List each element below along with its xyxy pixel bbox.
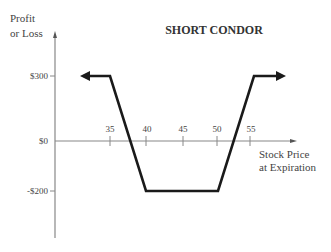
x-tick-label: 40 bbox=[143, 124, 153, 134]
x-tick-label: 55 bbox=[247, 124, 257, 134]
y-ticks: $300 $0 -$200 bbox=[27, 71, 55, 196]
y-axis-arrow-icon bbox=[53, 31, 57, 38]
y-axis-label-line1: Profit bbox=[10, 12, 35, 24]
x-tick-label: 50 bbox=[213, 124, 223, 134]
left-arrow-icon bbox=[80, 71, 90, 81]
x-axis-label-line1: Stock Price bbox=[259, 148, 310, 160]
y-tick-label: $0 bbox=[39, 136, 49, 146]
short-condor-chart: SHORT CONDOR Profit or Loss $300 $0 -$20… bbox=[0, 0, 331, 252]
y-tick-label: -$200 bbox=[27, 186, 48, 196]
chart-title: SHORT CONDOR bbox=[165, 23, 263, 37]
x-tick-label: 35 bbox=[106, 124, 116, 134]
y-axis-label-line2: or Loss bbox=[10, 27, 43, 39]
x-axis-label-line2: at Expiration bbox=[259, 161, 317, 173]
x-tick-label: 45 bbox=[179, 124, 189, 134]
y-tick-label: $300 bbox=[30, 71, 49, 81]
x-axis-arrow-icon bbox=[290, 139, 297, 143]
right-arrow-icon bbox=[276, 71, 286, 81]
